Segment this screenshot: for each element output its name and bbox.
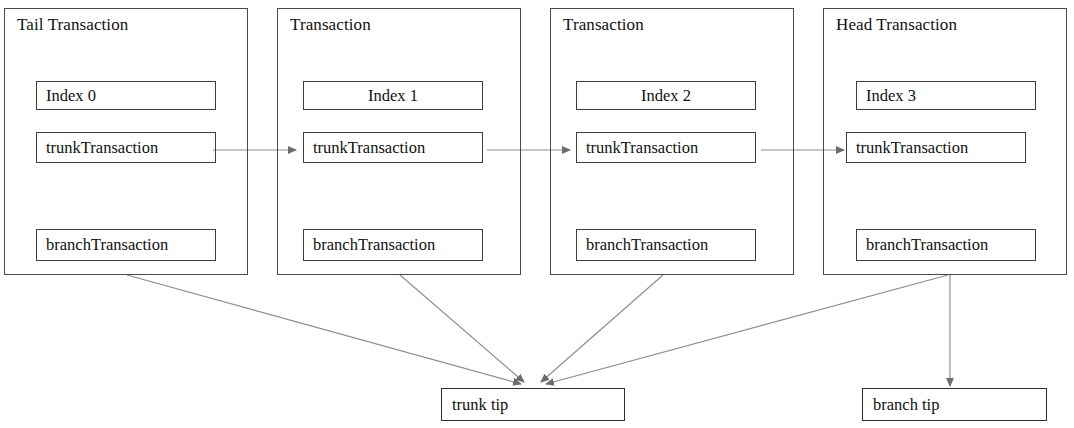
- field-trunk-label: trunkTransaction: [313, 138, 425, 158]
- field-index[interactable]: Index 3: [856, 81, 1036, 110]
- transaction-node-middle-2[interactable]: Transaction Index 2 trunkTransaction bra…: [550, 8, 794, 275]
- field-index-label: Index 2: [641, 86, 691, 106]
- edge-head-to-trunk-tip: [546, 275, 948, 384]
- transaction-title: Head Transaction: [836, 15, 957, 35]
- transaction-node-tail[interactable]: Tail Transaction Index 0 trunkTransactio…: [4, 8, 248, 275]
- transaction-title: Transaction: [290, 15, 371, 35]
- field-branch-label: branchTransaction: [313, 235, 435, 255]
- field-index[interactable]: Index 1: [303, 81, 483, 110]
- field-index[interactable]: Index 0: [36, 81, 216, 110]
- tip-node-branch[interactable]: branch tip: [862, 388, 1047, 421]
- transaction-title: Tail Transaction: [17, 15, 128, 35]
- field-index-label: Index 0: [46, 86, 96, 106]
- field-trunk-transaction[interactable]: trunkTransaction: [36, 132, 216, 163]
- field-trunk-transaction[interactable]: trunkTransaction: [303, 132, 483, 163]
- field-trunk-transaction[interactable]: trunkTransaction: [846, 132, 1026, 163]
- field-branch-transaction[interactable]: branchTransaction: [576, 229, 756, 261]
- edge-m2-to-trunk-tip: [541, 275, 663, 382]
- transaction-node-middle-1[interactable]: Transaction Index 1 trunkTransaction bra…: [277, 8, 521, 275]
- tip-node-trunk[interactable]: trunk tip: [441, 388, 625, 421]
- field-branch-transaction[interactable]: branchTransaction: [856, 229, 1036, 261]
- transaction-title: Transaction: [563, 15, 644, 35]
- field-trunk-transaction[interactable]: trunkTransaction: [576, 132, 756, 163]
- tip-label: branch tip: [873, 395, 939, 415]
- field-index-label: Index 1: [368, 86, 418, 106]
- transaction-node-head[interactable]: Head Transaction Index 3 trunkTransactio…: [823, 8, 1067, 275]
- edge-tail-to-trunk-tip: [127, 275, 521, 384]
- edge-m1-to-trunk-tip: [400, 275, 524, 382]
- diagram-canvas: Tail Transaction Index 0 trunkTransactio…: [0, 0, 1074, 428]
- field-branch-transaction[interactable]: branchTransaction: [36, 229, 216, 261]
- field-branch-label: branchTransaction: [46, 235, 168, 255]
- field-branch-label: branchTransaction: [866, 235, 988, 255]
- field-trunk-label: trunkTransaction: [46, 138, 158, 158]
- field-index[interactable]: Index 2: [576, 81, 756, 110]
- field-branch-transaction[interactable]: branchTransaction: [303, 229, 483, 261]
- field-trunk-label: trunkTransaction: [586, 138, 698, 158]
- tip-label: trunk tip: [452, 395, 508, 415]
- field-branch-label: branchTransaction: [586, 235, 708, 255]
- field-trunk-label: trunkTransaction: [856, 138, 968, 158]
- field-index-label: Index 3: [866, 86, 916, 106]
